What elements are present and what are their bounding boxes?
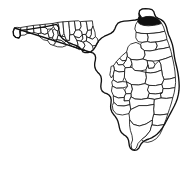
county-shape: Highlands xyxy=(131,84,149,100)
florida-county-map-svg: Map of Florida highlighting Nassau Count… xyxy=(0,0,193,178)
county-shape: St. Lucie xyxy=(162,77,176,88)
county-locator-map-figure: Map of Florida highlighting Nassau Count… xyxy=(0,0,193,178)
county-shape: Clay xyxy=(136,32,148,42)
county-shape: Okeechobee xyxy=(147,84,163,94)
county-shape: Osceola xyxy=(145,70,164,86)
